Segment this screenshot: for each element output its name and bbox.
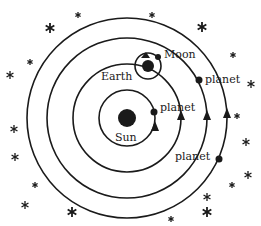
star-icon (75, 12, 80, 18)
earth-label: Earth (101, 70, 132, 83)
star-icon (204, 193, 211, 201)
star-icon (149, 12, 154, 18)
earth (142, 60, 154, 72)
star-icon (243, 138, 250, 146)
moon-label: Moon (164, 48, 196, 61)
moon (155, 54, 161, 60)
star-icon (230, 52, 235, 58)
star-icon (198, 22, 207, 32)
outer-planet (216, 156, 223, 163)
sun-label: Sun (115, 131, 137, 144)
inner-planet-label: planet (160, 101, 196, 114)
solar-system-diagram: Sun Earth Moon planet planet planet (0, 0, 261, 226)
star-icon (168, 216, 173, 222)
star-icon (68, 207, 77, 217)
star-icon (248, 80, 255, 88)
star-icon (203, 207, 212, 217)
outer-planet-label: planet (175, 150, 211, 163)
star-icon (229, 182, 234, 188)
star-icon (12, 153, 19, 161)
star-icon (234, 113, 239, 119)
inner-orbit-arrow-icon (151, 121, 159, 131)
star-icon (32, 182, 37, 188)
star-icon (11, 125, 18, 133)
star-icon (7, 71, 14, 79)
star-icon (22, 201, 29, 209)
middle-planet-label: planet (205, 73, 241, 86)
middle-planet (196, 77, 203, 84)
star-icon (27, 59, 32, 65)
outer-orbit-arrow-icon (223, 108, 231, 118)
sun (118, 109, 136, 127)
star-icon (245, 171, 252, 179)
middle-orbit-arrow-icon (203, 110, 211, 120)
star-icon (46, 23, 55, 33)
inner-planet (151, 109, 158, 116)
